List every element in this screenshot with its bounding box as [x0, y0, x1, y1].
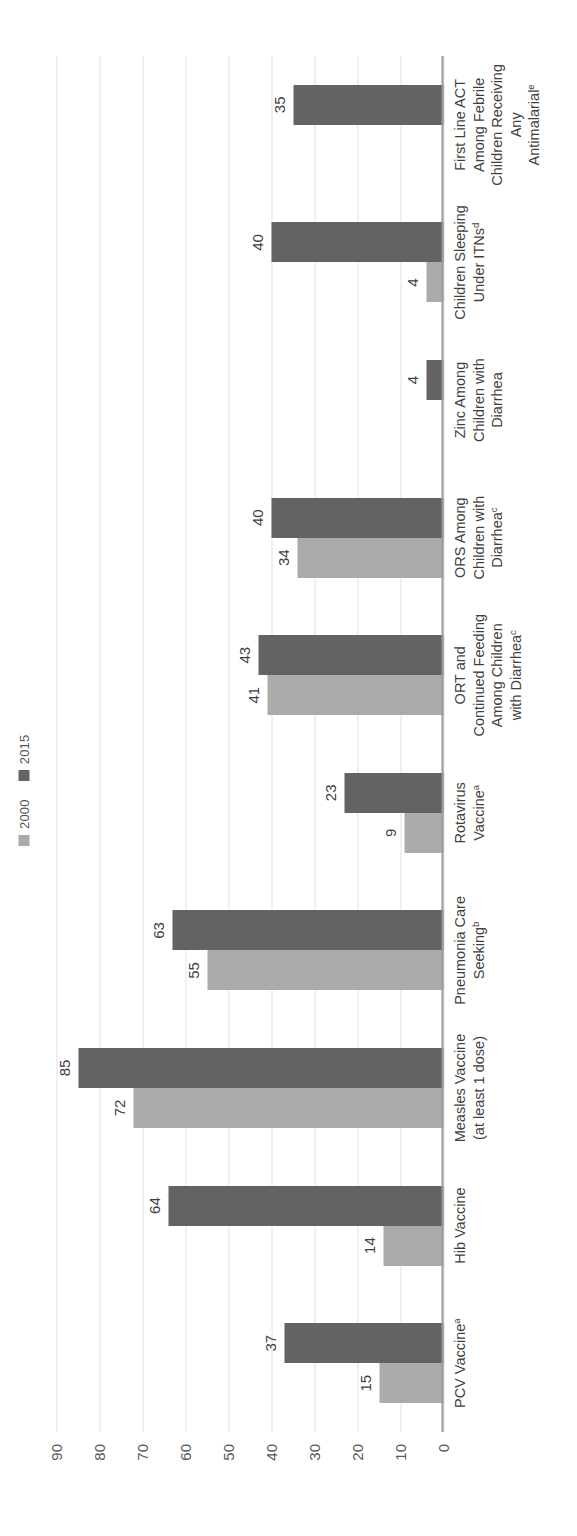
category-label: First Line ACTAmong FebrileChildren Rece…: [450, 56, 544, 194]
category-label: Zinc AmongChildren withDiarrhea: [450, 331, 544, 469]
bar-group: 5563: [56, 882, 443, 1020]
bar-pair: 923: [56, 744, 443, 882]
bar-group: 923: [56, 744, 443, 882]
legend-swatch-2015: [18, 770, 29, 781]
bar-value-label: 14: [360, 1237, 377, 1254]
bar-2000[interactable]: 72: [133, 1088, 443, 1128]
bar-group: 4143: [56, 606, 443, 744]
category-labels: PCV VaccineaHib VaccineMeasles Vaccine(a…: [450, 56, 544, 1432]
bar-group: 35: [56, 56, 443, 194]
bar-2000[interactable]: 9: [404, 813, 443, 853]
bar-value-label: 63: [149, 922, 166, 939]
y-axis-tick-label: 50: [220, 1444, 237, 1461]
bar-value-label: 85: [55, 1060, 72, 1077]
bar-group: 1537: [56, 1294, 443, 1432]
bar-value-label: 43: [235, 647, 252, 664]
bar-value-label: 34: [274, 549, 291, 566]
bar-pair: 4143: [56, 606, 443, 744]
bar-chart-figure: 2000 2015 0102030405060708090 1537146472…: [0, 0, 577, 1536]
bar-value-label: 72: [110, 1100, 127, 1117]
bar-pair: 5563: [56, 882, 443, 1020]
category-label: Children SleepingUnder ITNsd: [450, 194, 544, 332]
bar-group: 3440: [56, 469, 443, 607]
category-label: PCV Vaccinea: [450, 1294, 544, 1432]
bar-2000[interactable]: 55: [207, 950, 444, 990]
bar-2000[interactable]: 15: [379, 1363, 444, 1403]
bar-value-label: 55: [184, 962, 201, 979]
bar-group: 1464: [56, 1157, 443, 1295]
category-label: ORT andContinued FeedingAmong Childrenwi…: [450, 606, 544, 744]
y-axis-tick-label: 10: [392, 1444, 409, 1461]
bar-value-label: 40: [248, 234, 265, 251]
bar-value-label: 9: [381, 829, 398, 837]
bar-2015[interactable]: 40: [271, 222, 443, 262]
legend-swatch-2000: [18, 835, 29, 846]
chart-page: 2000 2015 0102030405060708090 1537146472…: [0, 0, 577, 1536]
bar-group: 440: [56, 194, 443, 332]
bar-2015[interactable]: 37: [284, 1323, 443, 1363]
y-axis-tick-label: 0: [435, 1444, 452, 1452]
bar-value-label: 35: [270, 97, 287, 114]
bar-pair: 35: [56, 56, 443, 194]
bar-2015[interactable]: 4: [426, 360, 443, 400]
bar-value-label: 40: [248, 509, 265, 526]
category-label: Hib Vaccine: [450, 1157, 544, 1295]
plot-area: 0102030405060708090 15371464728555639234…: [56, 56, 443, 1432]
bar-pair: 3440: [56, 469, 443, 607]
y-axis-tick-label: 90: [48, 1444, 65, 1461]
category-label: RotavirusVaccinea: [450, 744, 544, 882]
bar-group: 4: [56, 331, 443, 469]
category-label: Pneumonia CareSeekingb: [450, 882, 544, 1020]
bar-2015[interactable]: 23: [344, 773, 443, 813]
bar-value-label: 37: [261, 1335, 278, 1352]
bar-group: 7285: [56, 1019, 443, 1157]
bar-value-label: 15: [356, 1375, 373, 1392]
legend-item-2015: 2015: [16, 735, 31, 782]
bar-2015[interactable]: 63: [172, 910, 443, 950]
bar-2015[interactable]: 85: [78, 1048, 444, 1088]
y-axis-tick-label: 40: [263, 1444, 280, 1461]
bar-2015[interactable]: 64: [168, 1186, 443, 1226]
bar-2000[interactable]: 4: [426, 262, 443, 302]
bar-pair: 1464: [56, 1157, 443, 1295]
rotated-figure-wrapper: 2000 2015 0102030405060708090 1537146472…: [0, 0, 577, 1536]
bar-2000[interactable]: 14: [383, 1226, 443, 1266]
bar-2000[interactable]: 41: [267, 675, 443, 715]
bar-pair: 4: [56, 331, 443, 469]
bar-value-label: 64: [145, 1197, 162, 1214]
bar-2015[interactable]: 43: [258, 635, 443, 675]
category-label: ORS AmongChildren withDiarrheac: [450, 469, 544, 607]
y-axis-tick-label: 60: [177, 1444, 194, 1461]
bar-2015[interactable]: 40: [271, 498, 443, 538]
bar-pair: 1537: [56, 1294, 443, 1432]
bar-2015[interactable]: 35: [293, 85, 444, 125]
y-axis-tick-label: 30: [306, 1444, 323, 1461]
bar-value-label: 4: [403, 278, 420, 286]
chart-legend: 2000 2015: [16, 735, 31, 846]
bar-pair: 7285: [56, 1019, 443, 1157]
y-axis-tick-label: 80: [91, 1444, 108, 1461]
axis-baseline: [441, 56, 443, 1432]
legend-label-2015: 2015: [16, 735, 31, 765]
category-label: Measles Vaccine(at least 1 dose): [450, 1019, 544, 1157]
bar-2000[interactable]: 34: [297, 538, 443, 578]
y-axis-tick-label: 20: [349, 1444, 366, 1461]
bar-value-label: 4: [403, 376, 420, 384]
bar-value-label: 41: [244, 687, 261, 704]
y-axis-tick-label: 70: [134, 1444, 151, 1461]
bar-value-label: 23: [321, 784, 338, 801]
bar-pair: 440: [56, 194, 443, 332]
legend-label-2000: 2000: [16, 799, 31, 829]
legend-item-2000: 2000: [16, 799, 31, 846]
bar-groups: 153714647285556392341433440444035: [56, 56, 443, 1432]
